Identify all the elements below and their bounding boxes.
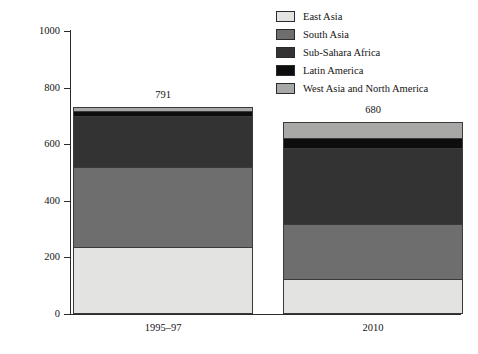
y-tick-mark	[64, 144, 70, 145]
bar-segment-east-asia	[74, 247, 252, 313]
y-tick-mark	[64, 201, 70, 202]
bar-segment-sub-sahara-africa	[284, 148, 462, 224]
y-tick-mark	[64, 88, 70, 89]
bar-2010	[283, 122, 463, 314]
y-tick-mark	[64, 31, 70, 32]
y-tick-mark	[64, 314, 70, 315]
x-axis-line	[70, 314, 461, 315]
y-tick-label: 0	[55, 309, 60, 319]
plot-area	[71, 31, 461, 314]
bar-total-label-2010: 680	[333, 104, 413, 115]
y-tick-label: 800	[44, 83, 60, 93]
bar-segment-south-asia	[284, 224, 462, 279]
bar-segment-south-asia	[74, 167, 252, 247]
y-tick-label: 200	[44, 252, 60, 262]
y-tick-label: 400	[44, 196, 60, 206]
legend-swatch-east-asia	[276, 11, 295, 22]
bar-total-label-1995-97: 791	[123, 89, 203, 100]
bar-segment-sub-sahara-africa	[74, 116, 252, 166]
bar-segment-latin-america	[284, 138, 462, 149]
legend-label-east-asia: East Asia	[303, 11, 342, 23]
y-tick-mark	[64, 257, 70, 258]
bar-segment-west-asia-and-north-america	[284, 123, 462, 138]
bar-1995-97	[73, 107, 253, 314]
y-tick-label: 600	[44, 139, 60, 149]
stacked-bar-chart: East Asia South Asia Sub-Sahara Africa L…	[0, 0, 478, 354]
x-tick-label-1995-97: 1995–97	[113, 322, 213, 333]
x-tick-label-2010: 2010	[323, 322, 423, 333]
y-tick-label: 1000	[39, 26, 60, 36]
legend-item-east-asia: East Asia	[276, 8, 472, 25]
bar-segment-east-asia	[284, 279, 462, 313]
